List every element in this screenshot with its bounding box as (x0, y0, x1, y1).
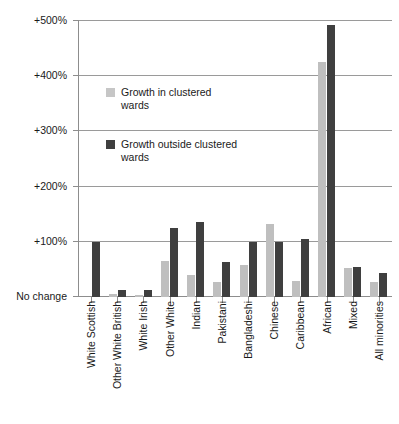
bar-chart: +500%+400%+300%+200%+100%No change White… (0, 0, 399, 424)
legend-entry-outside: Growth outside clustered wards (106, 138, 241, 163)
legend-swatch-icon-outside (106, 140, 115, 149)
legend: Growth in clustered wards Growth outside… (0, 0, 399, 424)
legend-entry-inside: Growth in clustered wards (106, 86, 241, 111)
legend-label-inside: Growth in clustered wards (121, 86, 241, 111)
legend-label-outside: Growth outside clustered wards (121, 138, 241, 163)
legend-swatch-icon-inside (106, 88, 115, 97)
